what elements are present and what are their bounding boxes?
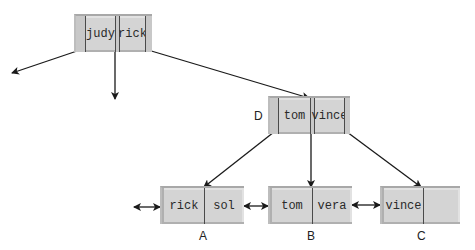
root-node: judy rick	[74, 14, 152, 52]
node-label-B: B	[307, 229, 315, 243]
edge-D-to-A	[204, 132, 274, 187]
leaf-node-C: vince	[380, 186, 460, 224]
key-cell: tom	[272, 188, 312, 224]
pointer-slot	[76, 16, 85, 52]
edge-D-to-C	[347, 132, 421, 187]
key-cell: rick	[164, 188, 204, 224]
pointer-slot	[146, 16, 152, 52]
leaf-node-B: tom vera	[268, 186, 352, 224]
leaf-node-A: rick sol	[160, 186, 244, 224]
key-cell: rick	[120, 16, 145, 52]
key-cell: judy	[86, 16, 115, 52]
key-cell: tom	[279, 98, 310, 134]
key-cell: vince	[315, 98, 344, 134]
pointer-slot	[345, 98, 350, 134]
edge-root-left	[12, 50, 80, 73]
internal-node-D: tom vince	[268, 96, 350, 134]
key-cell: vince	[384, 188, 423, 224]
key-cell: sol	[205, 188, 243, 224]
node-label-A: A	[199, 229, 207, 243]
node-label-D: D	[254, 109, 263, 123]
key-cell: vera	[313, 188, 351, 224]
node-label-C: C	[417, 229, 426, 243]
edge-root-to-D	[148, 50, 309, 98]
pointer-slot	[270, 98, 278, 134]
key-cell	[424, 188, 460, 224]
